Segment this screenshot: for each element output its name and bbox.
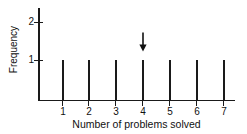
bar-5 (169, 60, 171, 100)
x-axis-tick-label: 1 (56, 106, 70, 117)
x-axis-tick-mark (169, 99, 170, 106)
y-axis-title: Frequency (8, 13, 19, 87)
x-axis-tick-mark (88, 99, 89, 106)
x-axis-tick-mark (223, 99, 224, 106)
x-axis-tick-mark (62, 99, 63, 106)
x-axis-tick-label: 2 (82, 106, 96, 117)
x-axis-tick-mark (142, 99, 143, 106)
down-arrow-icon (137, 32, 149, 52)
bar-1 (62, 60, 64, 100)
x-axis-tick-label: 3 (109, 106, 123, 117)
y-axis-tick-mark (34, 22, 43, 23)
x-axis-title: Number of problems solved (38, 118, 235, 130)
frequency-chart: 2 1 Frequency 1 2 3 4 5 6 7 Number of pr… (0, 0, 247, 134)
x-axis-tick-mark (115, 99, 116, 106)
bar-7 (223, 60, 225, 100)
x-axis-tick-label: 4 (136, 106, 150, 117)
x-axis-tick-mark (196, 99, 197, 106)
x-axis-tick-label: 5 (163, 106, 177, 117)
bar-2 (88, 60, 90, 100)
bar-6 (196, 60, 198, 100)
bar-3 (115, 60, 117, 100)
y-axis-tick-label: 2 (22, 17, 34, 27)
x-axis-tick-label: 6 (190, 106, 204, 117)
bar-4 (142, 60, 144, 100)
x-axis-line (38, 100, 235, 102)
y-axis-tick-mark (34, 60, 43, 61)
y-axis-tick-label: 1 (22, 55, 34, 65)
x-axis-tick-label: 7 (217, 106, 231, 117)
